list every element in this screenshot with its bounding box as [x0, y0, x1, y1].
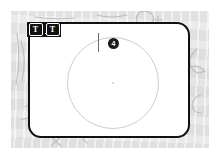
text-icon-alt: T — [46, 23, 60, 36]
circle-center-handle[interactable] — [112, 82, 114, 84]
app-root: 4 T T — [0, 0, 220, 160]
text-icon: T — [29, 23, 43, 36]
text-caret — [98, 33, 99, 52]
bullet-icon — [45, 33, 47, 35]
drawing-canvas[interactable]: 4 — [28, 22, 190, 138]
toolbar: T T — [27, 22, 61, 37]
toolbar-item-text-tool-alt[interactable]: T — [45, 23, 60, 36]
toolbar-item-text-tool[interactable]: T — [28, 23, 43, 36]
status-badge[interactable]: 4 — [108, 38, 119, 49]
